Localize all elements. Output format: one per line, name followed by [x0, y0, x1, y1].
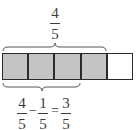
minus-operator: − [29, 104, 37, 118]
fraction-cell-shaded [3, 54, 29, 79]
top-fraction-denominator: 5 [51, 27, 59, 42]
fraction-bar [50, 23, 60, 24]
term1-denominator: 5 [18, 117, 26, 130]
top-brace [0, 41, 137, 53]
term1-numerator: 4 [18, 96, 26, 111]
term2-numerator: 1 [39, 96, 47, 111]
equation-term2: 1 5 [37, 96, 49, 130]
fraction-bar [38, 113, 48, 114]
fraction-bar [61, 113, 71, 114]
fraction-cell-shaded [82, 54, 108, 79]
result-denominator: 5 [62, 117, 70, 130]
top-fraction-label: 4 5 [48, 6, 62, 42]
fraction-cell-shaded [29, 54, 55, 79]
equation-term1: 4 5 [16, 96, 28, 130]
result-numerator: 3 [62, 96, 70, 111]
fraction-strip [2, 53, 133, 80]
bottom-brace [0, 81, 137, 93]
term2-denominator: 5 [39, 117, 47, 130]
top-fraction-numerator: 4 [51, 6, 59, 21]
fraction-bar [17, 113, 27, 114]
fraction-cell-shaded [55, 54, 81, 79]
equals-operator: = [51, 104, 59, 118]
equation-result: 3 5 [60, 96, 72, 130]
fraction-cell-empty [108, 54, 132, 79]
